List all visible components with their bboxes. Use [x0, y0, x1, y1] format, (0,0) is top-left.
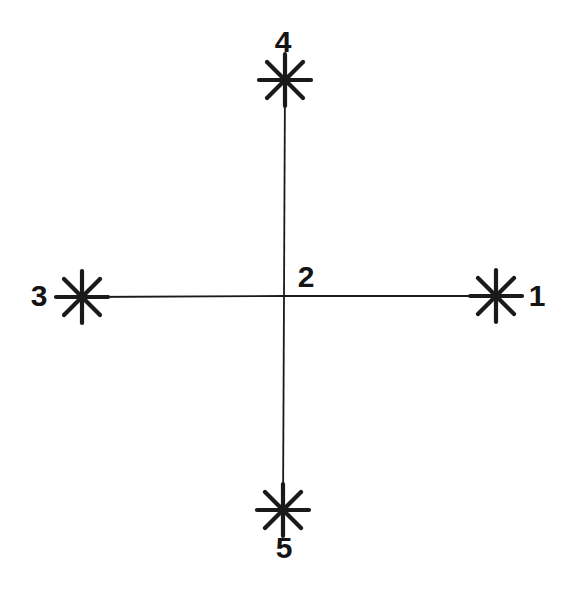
node-label-1: 1 [529, 281, 546, 311]
node-label-4: 4 [275, 27, 292, 57]
node-label-5: 5 [276, 533, 293, 563]
node-marker-left[interactable] [56, 271, 108, 323]
node-marker-right[interactable] [470, 270, 522, 322]
node-marker-bottom[interactable] [257, 484, 309, 536]
edge-center-to-top [284, 80, 285, 296]
node-label-3: 3 [31, 281, 48, 311]
edge-center-to-bottom [283, 296, 284, 510]
node-label-2: 2 [298, 262, 315, 292]
node-marker-top[interactable] [259, 54, 311, 106]
edge-center-to-left [82, 296, 284, 297]
cross-diagram-svg [0, 0, 571, 591]
figure-canvas: 4 3 2 1 5 [0, 0, 571, 591]
edges-group [82, 80, 496, 510]
